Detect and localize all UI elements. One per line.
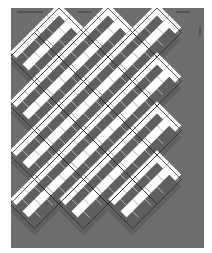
quilt-diagram bbox=[0, 0, 212, 253]
checkerboard-cells bbox=[10, 3, 181, 235]
